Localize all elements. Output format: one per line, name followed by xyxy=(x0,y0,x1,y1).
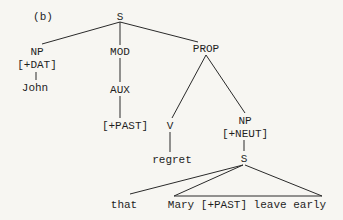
node-prop: PROP xyxy=(193,43,220,55)
edge-s-prop xyxy=(120,22,198,42)
node-that: that xyxy=(111,199,137,211)
edge-prop-v xyxy=(172,55,206,118)
tree-edges xyxy=(36,22,322,196)
node-s-embedded: S xyxy=(241,153,248,165)
edge-s-mary-right xyxy=(245,165,322,196)
node-np-neut: NP xyxy=(238,115,252,127)
edge-s-that xyxy=(130,165,243,194)
edge-s-np xyxy=(42,22,120,44)
node-np-dat: NP xyxy=(30,46,44,58)
node-past: [+PAST] xyxy=(102,120,148,132)
node-mary-clause: Mary [+PAST] leave early xyxy=(168,199,327,211)
edge-prop-np xyxy=(206,55,245,113)
node-np-dat-feature: [+DAT] xyxy=(17,59,57,71)
panel-label: (b) xyxy=(33,11,53,23)
node-john: John xyxy=(22,82,48,94)
node-mod: MOD xyxy=(110,46,130,58)
node-s-root: S xyxy=(117,11,124,23)
node-v: V xyxy=(167,120,174,132)
node-regret: regret xyxy=(152,154,192,166)
syntax-tree: (b) S NP [+DAT] John MOD AUX [+PAST] PRO… xyxy=(0,0,343,220)
node-aux: AUX xyxy=(110,84,130,96)
tree-labels: (b) S NP [+DAT] John MOD AUX [+PAST] PRO… xyxy=(17,11,326,211)
node-np-neut-feature: [+NEUT] xyxy=(222,128,268,140)
